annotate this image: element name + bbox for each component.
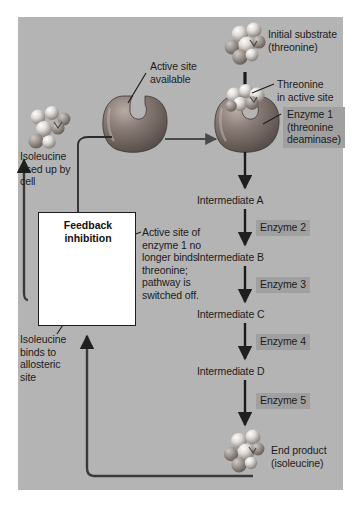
label-enzyme-3: Enzyme 3: [256, 277, 310, 293]
label-enzyme-1: Enzyme 1 (threonine deaminase): [283, 107, 345, 148]
label-enzyme-2: Enzyme 2: [256, 220, 310, 236]
label-end-product: End product (isoleucine): [271, 444, 327, 469]
enzyme-1-with-threonine: [215, 84, 279, 152]
label-feedback-inhibition: Feedback inhibition: [39, 219, 137, 244]
label-isoleucine-used-up: Isoleucine used up by cell: [20, 150, 70, 188]
label-enzyme-5: Enzyme 5: [256, 393, 310, 409]
label-intermediate-c: Intermediate C: [197, 308, 264, 321]
label-intermediate-d: Intermediate D: [197, 365, 264, 378]
label-initial-substrate: Initial substrate (threonine): [268, 28, 337, 53]
label-intermediate-a: Intermediate A: [197, 194, 263, 207]
label-active-site-switched-off: Active site of enzyme 1 no longer binds …: [142, 226, 201, 302]
label-intermediate-b: Intermediate B: [197, 251, 264, 264]
molecule-isoleucine-used-up: [28, 106, 70, 149]
feedback-inhibition-box: Feedback inhibition: [38, 212, 136, 326]
label-active-site-available: Active site available: [150, 60, 197, 85]
leader-active-site-available: [128, 73, 146, 103]
label-threonine-in-active-site: Threonine in active site: [277, 78, 333, 103]
molecule-initial-substrate: [225, 22, 266, 64]
enzyme-active-site-available: [103, 96, 167, 152]
label-isoleucine-binds-allosteric: Isoleucine binds to allosteric site: [20, 333, 66, 383]
diagram-canvas: Initial substrate (threonine) Active sit…: [0, 0, 361, 516]
molecule-end-product: [224, 430, 265, 473]
label-enzyme-4: Enzyme 4: [256, 334, 310, 350]
